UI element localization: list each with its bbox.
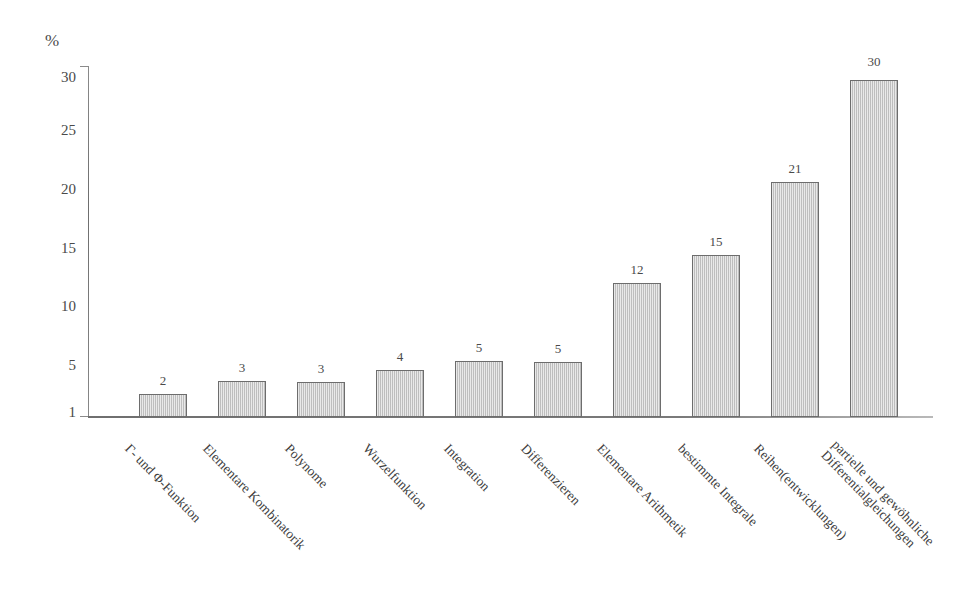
bar-value-3: 4	[376, 350, 424, 363]
bar-value-9: 30	[850, 55, 898, 68]
bar-9[interactable]	[850, 80, 898, 417]
bar-value-7: 15	[692, 235, 740, 248]
bar-value-6: 12	[613, 263, 661, 276]
bar-3[interactable]	[376, 370, 424, 417]
bar-1[interactable]	[218, 381, 266, 417]
plot-area: 2 3 3 4 5 5 12 15 21 30	[0, 0, 980, 589]
bar-value-1: 3	[218, 361, 266, 374]
bar-6[interactable]	[613, 283, 661, 417]
bar-5[interactable]	[534, 362, 582, 417]
bar-2[interactable]	[297, 382, 345, 417]
bar-4[interactable]	[455, 361, 503, 417]
bar-7[interactable]	[692, 255, 740, 417]
bar-value-2: 3	[297, 362, 345, 375]
bar-chart: % 30 25 20 15 10 5 1 2 3 3 4 5 5 12 15	[0, 0, 980, 589]
bar-0[interactable]	[139, 394, 187, 417]
bar-value-8: 21	[771, 162, 819, 175]
bar-8[interactable]	[771, 182, 819, 417]
bar-value-4: 5	[455, 341, 503, 354]
bar-value-0: 2	[139, 374, 187, 387]
bar-value-5: 5	[534, 342, 582, 355]
